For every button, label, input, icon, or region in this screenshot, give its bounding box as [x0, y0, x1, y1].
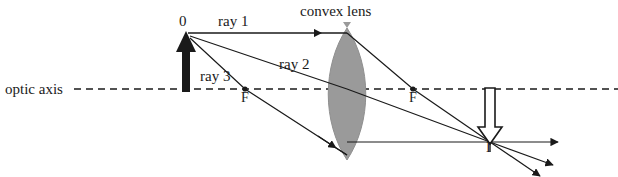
- focal-point-left-label: F: [241, 91, 249, 105]
- ray3-label: ray 3: [200, 69, 230, 84]
- ray-diagram-figure: optic axis 0 ray 1 ray 2 ray 3 convex le…: [0, 0, 618, 177]
- ray1-label: ray 1: [218, 14, 248, 29]
- ray1-refracted-segment: [347, 33, 540, 176]
- focal-point-right-label: F: [409, 91, 417, 105]
- optic-axis-label: optic axis: [5, 82, 63, 97]
- convex-lens-label: convex lens: [300, 4, 371, 19]
- ray-diagram-canvas: [0, 0, 618, 177]
- object-label: 0: [179, 14, 187, 29]
- ray2-label: ray 2: [279, 57, 309, 72]
- convex-lens-caption-pointer: [343, 22, 351, 28]
- ray3-incident-segment: [190, 38, 347, 155]
- image-label: I: [486, 141, 491, 155]
